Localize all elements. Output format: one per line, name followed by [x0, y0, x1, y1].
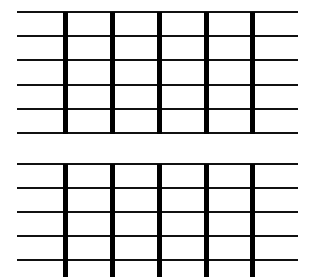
- vertical-bar: [63, 12, 68, 134]
- vertical-bar: [110, 12, 115, 134]
- vertical-bar: [204, 12, 209, 134]
- vertical-bar: [250, 164, 255, 277]
- vertical-bar: [250, 12, 255, 134]
- vertical-bar: [63, 164, 68, 277]
- vertical-bar: [110, 164, 115, 277]
- vertical-bar: [204, 164, 209, 277]
- vertical-bar: [157, 12, 162, 134]
- vertical-bar: [157, 164, 162, 277]
